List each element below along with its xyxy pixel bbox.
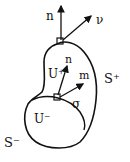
body-outline — [25, 42, 97, 148]
label-U-minus: U⁻ — [34, 113, 50, 125]
label-n-outer: n — [46, 10, 54, 22]
label-sigma: σ — [72, 98, 80, 110]
diagram-canvas: n ν U⁺ n m σ S⁺ U⁻ S⁻ — [0, 0, 130, 162]
arrow-v-outer — [63, 16, 91, 40]
label-S-plus: S⁺ — [104, 72, 120, 85]
label-U-plus: U⁺ — [48, 68, 64, 80]
label-v-outer: ν — [96, 14, 103, 26]
label-m-inner: m — [79, 70, 89, 81]
label-n-inner: n — [65, 54, 72, 65]
arrow-m-inner — [60, 84, 83, 97]
label-S-minus: S⁻ — [4, 136, 20, 149]
